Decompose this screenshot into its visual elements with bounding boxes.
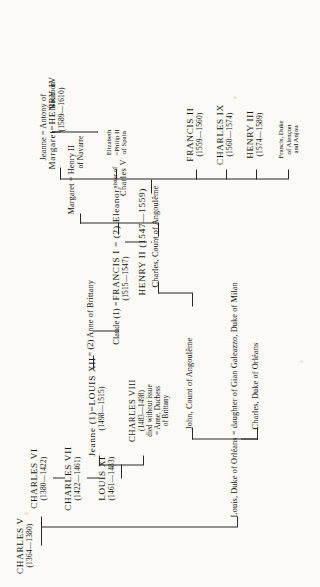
node-louis-duke-orleans: Louis, Duke of Orléans = daughter of Gia… (231, 274, 240, 517)
connector-jeanne-joint (97, 131, 98, 132)
node-charles-viii: CHARLES VIII (1483—1498) died without is… (128, 364, 170, 456)
node-claude: Claude (1) = (113, 301, 122, 363)
claude-label: Claude (1) = (113, 301, 122, 363)
charles-v-dates: (1364—1380) (26, 509, 34, 581)
node-charles-duke-orleans: Charles, Duke of Orléans (252, 309, 261, 429)
node-henry-ii: HENRY II (1547—1559) (138, 189, 148, 295)
node-elizabeth-philip: Elizabeth =Philip II of Spain (105, 111, 128, 173)
charles-viii-dates: (1483—1498) (138, 364, 146, 456)
charles-viii-spouse: = Anne, Duchess (154, 364, 162, 456)
elizabeth-line1: Elizabeth (105, 111, 113, 173)
connector-henry-ii-joint (151, 241, 152, 242)
connector-henry-ii-stem (151, 179, 152, 193)
alencon-line1: Francis, Duke (277, 107, 285, 171)
connector-charles-v-stem (41, 526, 42, 545)
node-jeanne-louis-xii: Jeanne (1)=LOUIS XII (1498—1515) (88, 370, 106, 456)
louis-xi-dates: (1461—1483) (108, 440, 116, 516)
elizabeth-line2: =Philip II (113, 111, 121, 173)
connector-henry-ii-down (151, 178, 196, 179)
connector-to-elizabeth-riser (116, 178, 151, 179)
charles-ix-dates: (1560—1574) (226, 97, 234, 171)
charles-orleans-label: Charles, Duke of Orléans (252, 309, 261, 429)
node-francis-ii: FRANCIS II (1559—1560) (186, 97, 204, 171)
node-henry-iii: HENRY III (1574—1589) (246, 97, 264, 171)
node-francis-alencon: Francis, Duke of Alençon and Anjou (277, 107, 300, 171)
connector-charles-v-bracket (41, 526, 237, 527)
alencon-line2: of Alençon (285, 107, 293, 171)
charles-viii-spouse-cont: of Brittany (162, 364, 170, 456)
genealogy-tree: CHARLES V (1364—1380) CHARLES VI (1380—1… (0, 0, 320, 587)
connector-to-charles-viii (143, 455, 144, 465)
anne-brittany-label: = (2) Anne of Brittany (87, 272, 96, 356)
node-charles-count-angouleme: Charles, Count of Angoulême (152, 147, 161, 287)
francis-ii-dates: (1559—1560) (196, 97, 204, 171)
connector-charles-ang-children-stem (158, 222, 159, 236)
connector-louis-xi-bracket (99, 464, 143, 465)
connector-henry-iv-to-jeanne (52, 131, 60, 132)
connector-margaret-to-jeanne (74, 131, 98, 132)
node-charles-ix: CHARLES IX (1560—1574) (216, 97, 234, 171)
john-angouleme-label: John, Count of Angoulême (186, 305, 195, 429)
henry-ii-label: HENRY II (1547—1559) (138, 189, 148, 295)
node-charles-vi: CHARLES VI (1380—1422) (30, 440, 48, 516)
charles-vii-dates: (1422—1461) (74, 440, 82, 516)
node-margaret-henry-iv: Margaret=HENRY IV (1589—1610) (48, 73, 66, 169)
charles-vi-dates: (1380—1422) (40, 440, 48, 516)
charles-angouleme-label: Charles, Count of Angoulême (152, 147, 161, 287)
connector-john-to-charles-ang (192, 292, 193, 306)
connector-louis-xi-stem (121, 464, 122, 478)
louis-orleans-label: Louis, Duke of Orléans = daughter of Gia… (231, 274, 240, 517)
connector-orleans-bracket (192, 438, 258, 439)
connector-to-jeanne (99, 455, 100, 465)
connector-charles-ang-riser (158, 292, 192, 293)
charles-viii-name: CHARLES VIII (128, 364, 138, 456)
alencon-line3: and Anjou (292, 107, 300, 171)
louis-xii-dates: (1498—1515) (98, 370, 106, 456)
connector-henry-iv-marriage-joint (60, 131, 61, 132)
connector-to-francis-i (118, 222, 119, 234)
node-john-count-angouleme: John, Count of Angoulême (186, 305, 195, 429)
henry-iv-dates: (1589—1610) (58, 73, 66, 169)
connector-henry-ii-children-bracket (196, 178, 288, 179)
node-charles-v: CHARLES V (1364—1380) (16, 509, 34, 581)
charles-viii-note-issue: died without issue (146, 364, 154, 456)
connector-to-louis-orleans (237, 516, 238, 527)
node-charles-vii: CHARLES VII (1422—1461) (64, 440, 82, 516)
connector-louis-xii-marriage (93, 355, 94, 369)
henry-iii-dates: (1574—1589) (256, 97, 264, 171)
connector-to-margaret-riser (80, 222, 118, 223)
connector-to-margaret-henry-iv-riser (60, 178, 116, 179)
connector-to-margaret (80, 213, 81, 223)
elizabeth-line3: of Spain (120, 111, 128, 173)
connector-to-charles-vi (41, 516, 42, 527)
node-anne-of-brittany: = (2) Anne of Brittany (87, 272, 96, 356)
page-canvas: CHARLES V (1364—1380) CHARLES VI (1380—1… (0, 0, 320, 587)
